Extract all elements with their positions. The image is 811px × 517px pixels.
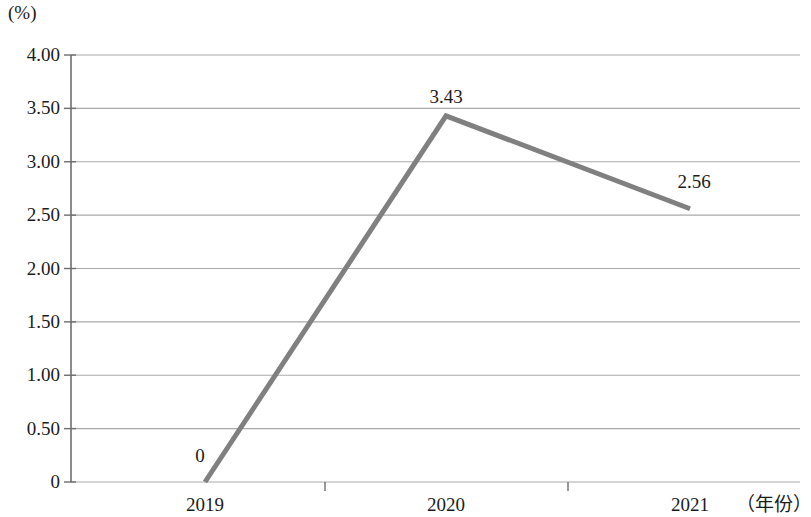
plot-area-svg xyxy=(0,0,811,517)
data-point-label: 0 xyxy=(195,446,205,465)
x-axis-title: （年份） xyxy=(736,495,811,514)
x-axis-tick-label: 2020 xyxy=(427,495,465,514)
x-axis-ticks-group xyxy=(325,482,568,491)
x-axis-tick-label: 2019 xyxy=(186,495,224,514)
data-line xyxy=(205,116,690,482)
x-axis-tick-label: 2021 xyxy=(671,495,709,514)
y-axis-ticks-group xyxy=(64,55,76,482)
data-point-label: 2.56 xyxy=(677,172,710,191)
data-series-group xyxy=(205,116,690,482)
data-point-label: 3.43 xyxy=(429,87,462,106)
line-chart-figure: (%) 4.003.503.002.502.001.501.000.500 20… xyxy=(0,0,811,517)
gridlines-group xyxy=(71,55,800,482)
